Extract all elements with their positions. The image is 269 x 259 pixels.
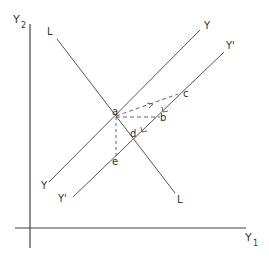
line-L-label-top: L <box>47 27 53 37</box>
y1-axis-label: Y <box>245 232 252 243</box>
point-a-label: a <box>112 107 118 117</box>
arrow-toward-c-icon <box>147 103 153 108</box>
point-d-label: d <box>130 129 136 139</box>
point-b-label: b <box>160 113 166 123</box>
y2-axis-subscript: 2 <box>21 22 26 30</box>
line-Y-prime <box>73 52 224 197</box>
y2-axis-label: Y <box>13 14 20 25</box>
line-Y-prime-label-top: Y' <box>226 41 235 51</box>
line-Y <box>49 30 200 182</box>
line-L-label-bottom: L <box>177 195 183 205</box>
line-Y-prime-label-bottom: Y' <box>58 194 67 204</box>
point-c-label: c <box>183 89 189 99</box>
point-e-label: e <box>112 157 118 167</box>
line-Y-label-bottom: Y <box>41 181 47 191</box>
y1-axis-subscript: 1 <box>253 240 258 248</box>
line-Y-label-top: Y <box>204 21 210 31</box>
